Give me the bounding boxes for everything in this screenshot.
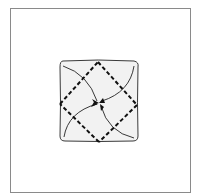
paper-square (60, 60, 138, 142)
fold-diagram (0, 0, 202, 196)
